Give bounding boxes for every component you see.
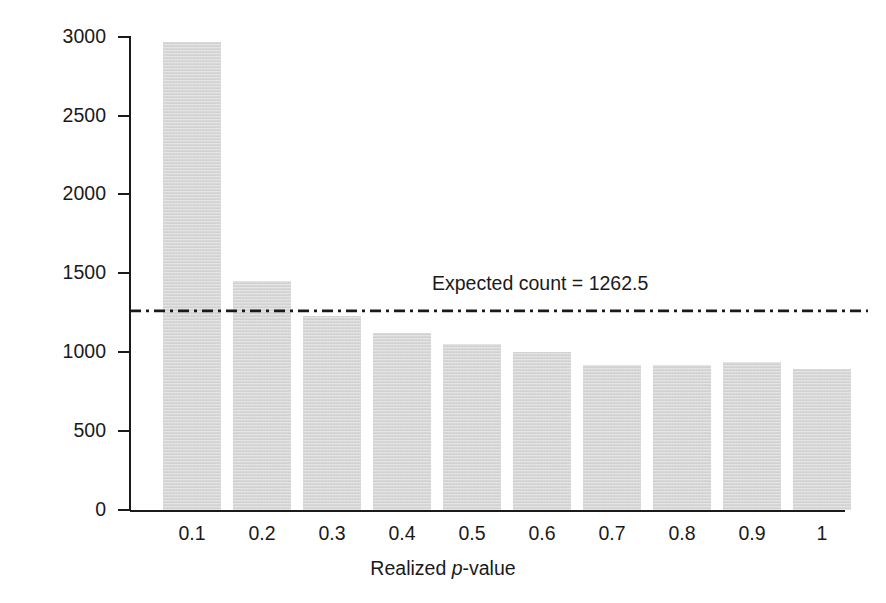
x-axis-line [130,510,845,512]
x-tick-label-2: 0.3 [318,524,345,544]
x-tick-label-9: 1 [817,524,828,544]
x-tick-label-3: 0.4 [388,524,415,544]
histogram-figure: Frequency 0 500 1000 1500 2000 2500 3000 [0,0,886,603]
x-tick-label-5: 0.6 [528,524,555,544]
expected-count-annotation: Expected count = 1262.5 [432,274,648,294]
x-axis-title-italic: p [452,557,463,579]
x-tick-label-6: 0.7 [598,524,625,544]
x-tick-label-8: 0.9 [738,524,765,544]
expected-count-line [0,0,886,603]
x-axis-title-suffix: -value [463,557,516,579]
x-tick-label-7: 0.8 [668,524,695,544]
x-tick-label-0: 0.1 [178,524,205,544]
x-tick-label-4: 0.5 [458,524,485,544]
x-axis-title: Realized p-value [0,557,886,580]
x-tick-label-1: 0.2 [248,524,275,544]
x-axis-title-prefix: Realized [370,557,451,579]
